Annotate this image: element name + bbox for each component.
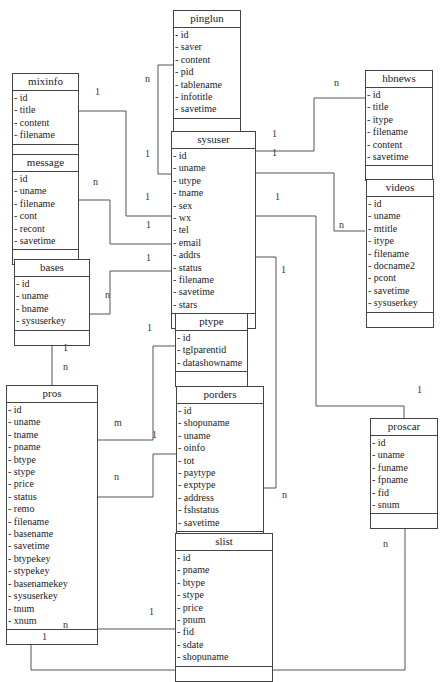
attribute: id — [176, 332, 247, 344]
entity-pinglun[interactable]: pinglun id saver content pid tablename i… — [173, 10, 241, 134]
cardinality-label: 1 — [275, 192, 280, 202]
entity-title: slist — [176, 534, 272, 551]
attribute: savetime — [367, 285, 433, 297]
entity-videos[interactable]: videos id uname mtitle itype filename do… — [366, 179, 434, 328]
entity-slist[interactable]: slist id pname btype stype price pnum fi… — [175, 533, 273, 682]
attribute: savetime — [174, 103, 240, 115]
attribute: utype — [172, 175, 255, 187]
attribute: docname2 — [367, 260, 433, 272]
attribute: datashowname — [176, 357, 247, 369]
entity-title: pinglun — [174, 11, 240, 28]
attribute: wx — [172, 212, 255, 224]
attribute: fshstatus — [177, 504, 263, 516]
attribute: sysuserkey — [7, 590, 97, 602]
attribute: title — [13, 104, 78, 116]
attribute: id — [371, 437, 437, 449]
attribute: tot — [177, 455, 263, 467]
attribute: tname — [172, 187, 255, 199]
entity-operations — [371, 514, 437, 528]
cardinality-label: 1 — [152, 430, 157, 440]
entity-title: proscar — [371, 419, 437, 436]
attribute: stars — [172, 299, 255, 311]
attribute: pname — [7, 441, 97, 453]
cardinality-label: n — [145, 74, 150, 84]
attribute: exptype — [177, 479, 263, 491]
cardinality-label: n — [339, 220, 344, 230]
entity-title: porders — [177, 387, 263, 404]
cardinality-label: n — [114, 472, 119, 482]
entity-mixinfo[interactable]: mixinfo id title content filename — [12, 73, 79, 160]
attribute: sex — [172, 200, 255, 212]
attribute: btype — [176, 577, 272, 589]
entity-pros[interactable]: pros id uname tname pname btype stype pr… — [6, 385, 98, 645]
attribute: savetime — [366, 151, 432, 163]
attribute: filename — [7, 516, 97, 528]
attribute: basenamekey — [7, 578, 97, 590]
attribute: sysuserkey — [15, 315, 89, 327]
attribute: id — [172, 150, 255, 162]
attribute: id — [176, 552, 272, 564]
attribute: btypekey — [7, 553, 97, 565]
cardinality-label: n — [334, 78, 339, 88]
attribute: id — [174, 29, 240, 41]
cardinality-label: n — [63, 620, 68, 630]
attribute: id — [7, 404, 97, 416]
entity-sysuser[interactable]: sysuser id uname utype tname sex wx tel … — [171, 131, 256, 329]
entity-porders[interactable]: porders id shopuname uname oinfo tot pay… — [176, 386, 264, 547]
attribute: uname — [15, 290, 89, 302]
attribute: xnum — [7, 615, 97, 627]
attribute: basename — [7, 528, 97, 540]
attribute: sysuserkey — [367, 297, 433, 309]
cardinality-label: 1 — [272, 129, 277, 139]
attribute: pcont — [367, 272, 433, 284]
cardinality-label: 1 — [281, 265, 286, 275]
entity-hbnews[interactable]: hbnews id title itype filename content s… — [365, 70, 433, 181]
cardinality-label: n — [105, 290, 110, 300]
cardinality-label: n — [383, 539, 388, 549]
cardinality-label: 1 — [417, 385, 422, 395]
entity-title: pros — [7, 386, 97, 403]
attribute: price — [7, 478, 97, 490]
attribute: tname — [7, 429, 97, 441]
entity-bases[interactable]: bases id uname bname sysuserkey — [14, 259, 90, 346]
attribute: filename — [172, 274, 255, 286]
attribute: filename — [13, 198, 78, 210]
link-sysuser-hbnews — [256, 98, 365, 151]
attribute: stype — [176, 589, 272, 601]
cardinality-label: n — [282, 490, 287, 500]
cardinality-label: 1 — [145, 192, 150, 202]
attribute: shopuname — [177, 417, 263, 429]
attribute: savetime — [177, 517, 263, 529]
attribute: addrs — [172, 249, 255, 261]
cardinality-label: 1 — [63, 343, 68, 353]
entity-proscar[interactable]: proscar id uname funame fpname fid snum — [370, 418, 438, 529]
cardinality-label: 1 — [146, 220, 151, 230]
attribute: uname — [177, 430, 263, 442]
link-porders-pros — [97, 454, 176, 497]
attribute: fid — [176, 626, 272, 638]
attribute: shopuname — [176, 651, 272, 663]
entity-title: bases — [15, 260, 89, 277]
entity-title: mixinfo — [13, 74, 78, 91]
cardinality-label: n — [63, 362, 68, 372]
attribute: infotitle — [174, 91, 240, 103]
attribute: uname — [367, 210, 433, 222]
entity-ptype[interactable]: ptype id tglparentid datashowname — [175, 313, 248, 387]
attribute: stypekey — [7, 565, 97, 577]
attribute: savetime — [7, 540, 97, 552]
entity-operations — [176, 372, 247, 386]
attribute: price — [176, 602, 272, 614]
link-sysuser-videos — [256, 173, 365, 231]
attribute: remo — [7, 503, 97, 515]
attribute: cont — [13, 210, 78, 222]
attribute: title — [366, 101, 432, 113]
attribute: tablename — [174, 79, 240, 91]
entity-message[interactable]: message id uname filename cont recont sa… — [12, 154, 79, 265]
attribute: status — [172, 262, 255, 274]
link-bases-sysuser — [90, 271, 172, 314]
entity-operations — [176, 667, 272, 681]
cardinality-label: 1 — [42, 632, 47, 642]
cardinality-label: 1 — [272, 148, 277, 158]
entity-title: hbnews — [366, 71, 432, 88]
attribute: uname — [371, 449, 437, 461]
